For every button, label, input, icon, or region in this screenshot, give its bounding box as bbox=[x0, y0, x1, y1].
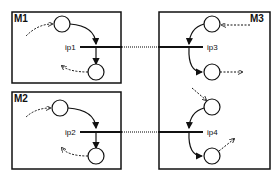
module-diagram: M1 ip1 M2 ip2 M3 ip3 bbox=[0, 0, 279, 178]
state-node bbox=[88, 148, 104, 164]
module-m3: M3 ip3 ip4 bbox=[158, 12, 270, 169]
module-m2: M2 ip2 bbox=[12, 92, 122, 169]
module-m2-label: M2 bbox=[14, 93, 28, 104]
state-node bbox=[204, 16, 220, 32]
module-m1-label: M1 bbox=[14, 13, 28, 24]
state-node bbox=[88, 64, 104, 80]
module-m3-label: M3 bbox=[250, 13, 264, 24]
module-m1: M1 ip1 bbox=[12, 12, 122, 83]
ip3-label: ip3 bbox=[207, 43, 218, 52]
transition-arrow bbox=[70, 24, 96, 44]
state-node bbox=[204, 148, 220, 164]
dashed-input-arrow bbox=[192, 88, 206, 100]
ip2-label: ip2 bbox=[65, 128, 76, 137]
state-node bbox=[54, 16, 70, 32]
dashed-input-arrow bbox=[26, 24, 52, 36]
state-node bbox=[204, 99, 220, 115]
dashed-input-arrow bbox=[26, 108, 50, 117]
transition-arrow bbox=[68, 108, 96, 128]
state-node bbox=[204, 64, 220, 80]
state-node bbox=[52, 100, 68, 116]
transition-arrow bbox=[189, 24, 204, 44]
dashed-output-arrow bbox=[219, 139, 234, 151]
transition-arrow bbox=[189, 48, 202, 72]
dashed-output-arrow bbox=[62, 148, 88, 156]
ip1-label: ip1 bbox=[65, 43, 76, 52]
transition-arrow bbox=[189, 132, 202, 156]
transition-arrow bbox=[189, 108, 204, 128]
dashed-output-arrow bbox=[62, 66, 88, 72]
ip4-label: ip4 bbox=[207, 128, 218, 137]
